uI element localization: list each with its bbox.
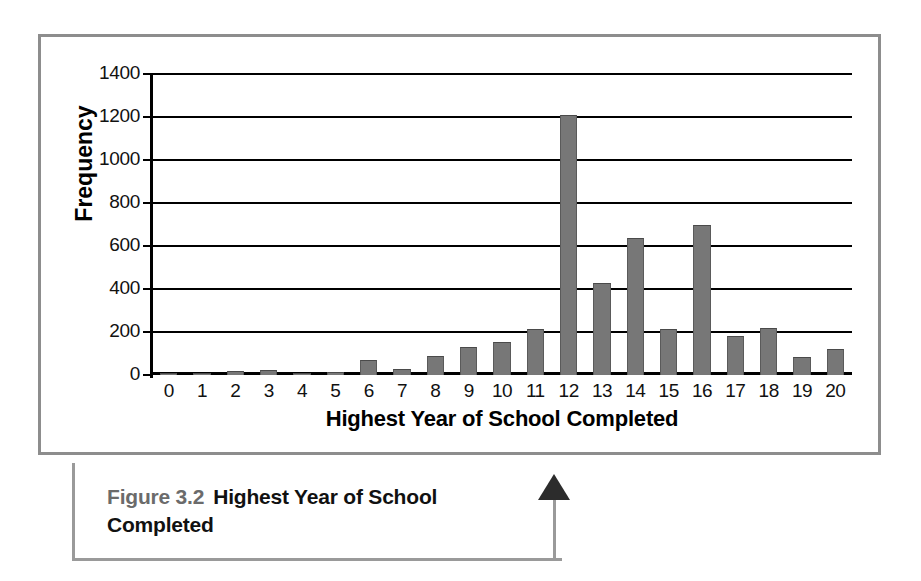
x-axis-tick-label: 8	[419, 380, 452, 402]
y-axis-tick	[143, 73, 152, 75]
bar	[693, 225, 710, 376]
bar	[627, 238, 644, 375]
y-axis-tick-label: 1000	[82, 148, 140, 170]
y-axis-tick	[143, 331, 152, 333]
bar	[427, 356, 444, 375]
gridline	[152, 116, 852, 118]
x-axis-tick-label: 18	[752, 380, 785, 402]
bar	[827, 349, 844, 375]
gridline	[152, 73, 852, 75]
bar	[160, 373, 177, 375]
x-axis-tick-label: 1	[185, 380, 218, 402]
gridline	[152, 288, 852, 290]
y-axis-tick-label: 200	[82, 320, 140, 342]
x-axis-tick-label: 12	[552, 380, 585, 402]
x-axis-tick-label: 2	[219, 380, 252, 402]
y-axis-tick	[143, 374, 152, 376]
x-axis-tick-label: 4	[285, 380, 318, 402]
y-axis-tick	[143, 288, 152, 290]
bar	[360, 360, 377, 375]
y-axis-tick	[143, 116, 152, 118]
y-axis-tick-label: 400	[82, 277, 140, 299]
x-axis-tick-label: 15	[652, 380, 685, 402]
y-axis-tick-label: 600	[82, 234, 140, 256]
gridline	[152, 245, 852, 247]
bar	[593, 283, 610, 375]
callout-arrow-icon	[538, 474, 570, 500]
x-axis-tick-label: 9	[452, 380, 485, 402]
x-axis-title: Highest Year of School Completed	[152, 406, 852, 432]
y-axis-tick-label: 0	[82, 363, 140, 385]
y-axis-tick	[143, 159, 152, 161]
x-axis-tick-label: 7	[385, 380, 418, 402]
figure-caption: Figure 3.2Highest Year of School Complet…	[107, 483, 467, 538]
x-axis-tick-label: 17	[719, 380, 752, 402]
x-axis-tick-label: 5	[319, 380, 352, 402]
x-axis-tick-label: 19	[785, 380, 818, 402]
bar	[660, 329, 677, 375]
bar	[393, 369, 410, 375]
bar	[193, 373, 210, 375]
bar	[560, 115, 577, 375]
caption-callout-box: Figure 3.2Highest Year of School Complet…	[72, 463, 562, 561]
y-axis-tick	[143, 202, 152, 204]
x-axis-tick-label: 13	[585, 380, 618, 402]
gridline	[152, 159, 852, 161]
plot-area	[152, 74, 852, 375]
y-axis-tick-label: 800	[82, 191, 140, 213]
bar	[460, 347, 477, 375]
bar	[493, 342, 510, 375]
bar	[327, 372, 344, 375]
x-axis-tick-label: 6	[352, 380, 385, 402]
x-axis-tick-label: 10	[485, 380, 518, 402]
bar	[227, 371, 244, 375]
x-axis-tick-label: 14	[619, 380, 652, 402]
bar	[260, 370, 277, 375]
callout-stem	[553, 498, 556, 561]
x-axis-tick-label: 3	[252, 380, 285, 402]
y-axis-tick-label: 1400	[82, 62, 140, 84]
gridline	[152, 331, 852, 333]
y-axis-tick-label: 1200	[82, 105, 140, 127]
y-axis-tick	[143, 245, 152, 247]
bar	[527, 329, 544, 375]
bar	[760, 328, 777, 375]
x-axis-tick-label: 16	[685, 380, 718, 402]
x-axis-tick-label: 0	[152, 380, 185, 402]
x-axis-tick-label: 11	[519, 380, 552, 402]
bar	[793, 357, 810, 375]
bar	[293, 373, 310, 375]
bar	[727, 336, 744, 375]
figure-caption-label: Figure 3.2	[107, 485, 204, 508]
x-axis-tick-label: 20	[819, 380, 852, 402]
gridline	[152, 202, 852, 204]
